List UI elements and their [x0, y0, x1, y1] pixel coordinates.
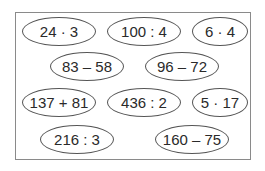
exercise-ellipse: 100 : 4 — [107, 17, 181, 46]
exercise-ellipse: 436 : 2 — [107, 88, 181, 117]
exercise-ellipse: 216 : 3 — [40, 125, 114, 154]
exercise-ellipse: 83 – 58 — [50, 52, 124, 81]
exercise-ellipse: 137 + 81 — [22, 88, 96, 117]
exercise-ellipse: 5 · 17 — [192, 88, 248, 117]
exercise-ellipse: 160 – 75 — [155, 125, 229, 154]
exercise-ellipse: 6 · 4 — [192, 17, 248, 46]
exercise-ellipse: 24 · 3 — [22, 17, 96, 46]
exercise-ellipse: 96 – 72 — [145, 52, 219, 81]
